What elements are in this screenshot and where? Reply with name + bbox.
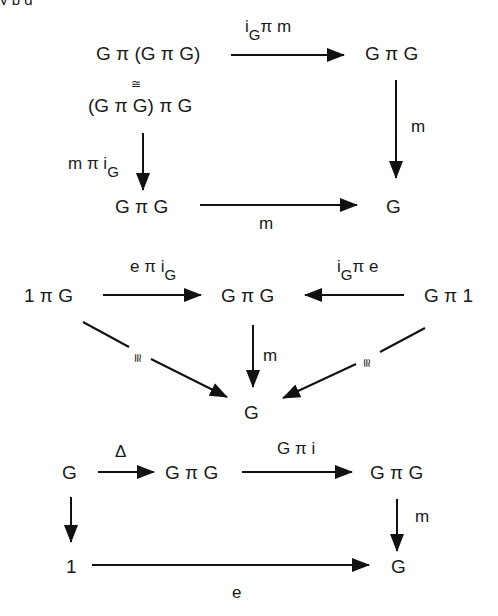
node-top-right-g-pi-g: G π G: [365, 44, 418, 63]
label-right-arrow: iGπ e: [337, 258, 378, 275]
label-subscript-g: G: [249, 26, 261, 43]
node-g-pi-g-pi-g-right-assoc: G π (G π G): [96, 44, 200, 63]
label-right-m: m: [411, 118, 425, 135]
label-right-m: m: [415, 508, 429, 525]
node-1-pi-g: 1 π G: [24, 286, 73, 305]
node-bottom-left-g-pi-g: G π G: [115, 197, 168, 216]
label-e-pi-i: e π i: [130, 257, 164, 276]
label-subscript-g: G: [164, 266, 176, 283]
label-bottom-e: e: [232, 584, 241, 601]
label-top-arrow: iGπ m: [245, 18, 291, 35]
node-bottom-g: G: [244, 403, 259, 422]
node-right-g-pi-g: G π G: [370, 463, 423, 482]
arrow-diag-right-b: [283, 364, 356, 398]
label-g-pi-i: G π i: [277, 440, 315, 457]
node-g-pi-1: G π 1: [424, 286, 473, 305]
arrow-diag-right-a: [380, 328, 425, 352]
node-bottom-right-g: G: [386, 197, 401, 216]
node-bottom-right-g: G: [391, 557, 406, 576]
label-diag-right-iso: ≅: [361, 358, 373, 368]
iso-symbol: ≅: [131, 78, 141, 90]
node-g-pi-g-pi-g-left-assoc: (G π G) π G: [88, 96, 192, 115]
label-subscript-g: G: [341, 266, 353, 283]
arrow-diag-left-b: [151, 359, 227, 397]
label-left-arrow: e π iG: [130, 258, 176, 275]
label-bottom-m: m: [259, 215, 273, 232]
label-m-pi-i: m π i: [68, 154, 107, 173]
label-diag-left-iso: ≅: [132, 353, 144, 363]
label-delta: Δ: [115, 443, 126, 460]
label-pi-e: π e: [352, 257, 378, 276]
node-g: G: [62, 463, 77, 482]
node-1: 1: [66, 557, 77, 576]
label-left-arrow: m π iG: [68, 155, 119, 172]
arrow-diag-left-a: [83, 322, 129, 347]
label-pi-m: π m: [260, 17, 291, 36]
label-subscript-g: G: [107, 163, 119, 180]
label-center-m: m: [263, 347, 277, 364]
node-mid-g-pi-g: G π G: [165, 463, 218, 482]
node-center-g-pi-g: G π G: [221, 286, 274, 305]
